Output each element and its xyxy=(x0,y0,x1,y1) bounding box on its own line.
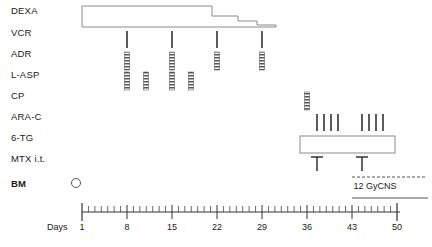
6tg-box xyxy=(300,136,395,153)
arac-marks xyxy=(317,114,383,131)
lasp-marks xyxy=(125,72,194,90)
mtx-marks xyxy=(311,157,368,171)
adr-marks xyxy=(125,52,265,70)
dexa-bar xyxy=(82,6,276,27)
cp-marks xyxy=(305,92,310,110)
vcr-marks xyxy=(127,31,262,48)
schedule-plot xyxy=(0,0,432,247)
protocol-schedule-figure: DEXA VCR ADR L-ASP CP ARA-C 6-TG MTX i.t… xyxy=(0,0,432,247)
time-axis xyxy=(82,203,400,221)
bm-marker xyxy=(72,179,81,188)
